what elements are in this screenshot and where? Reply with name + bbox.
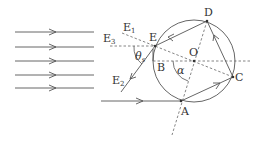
label-d: D <box>204 6 213 19</box>
segment-a-c <box>181 77 233 101</box>
normal-d-a-line <box>172 21 207 135</box>
label-a: A <box>180 105 190 118</box>
label-e1: E1 <box>123 21 136 35</box>
segment-d-e <box>155 21 207 46</box>
incident-rays <box>15 29 94 91</box>
label-theta-s: θs <box>135 50 146 64</box>
label-e3: E3 <box>103 32 116 46</box>
label-e: E <box>149 31 157 44</box>
label-b: B <box>157 61 165 74</box>
label-e2: E2 <box>112 74 125 88</box>
label-o: O <box>189 46 198 59</box>
droplet-diagram: E D O B C A α E1 E3 E2 θs <box>0 0 261 144</box>
label-alpha: α <box>177 64 185 77</box>
label-c: C <box>235 71 243 84</box>
